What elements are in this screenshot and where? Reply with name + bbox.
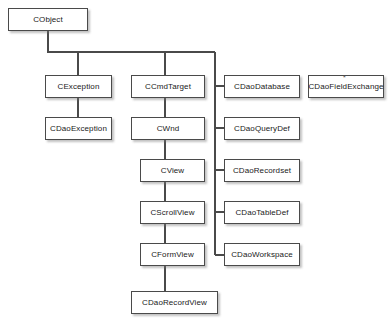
class-hierarchy-diagram: CObject CException CDaoException CCmdTar… (0, 0, 388, 326)
node-label: CDaoWorkspace (231, 251, 293, 259)
node-label: CScrollView (150, 209, 194, 217)
node-label: CDaoRecordView (142, 299, 207, 307)
node-label: CDaoTableDef (235, 209, 288, 217)
node-ccmdtarget[interactable]: CCmdTarget (131, 75, 205, 98)
node-label: CException (58, 83, 100, 91)
node-cexception[interactable]: CException (45, 75, 112, 98)
node-label: CFormView (151, 251, 194, 259)
asterisk-mark-icon: * (343, 74, 346, 81)
node-label: CDaoRecordset (233, 167, 291, 175)
node-cdaotabledef[interactable]: CDaoTableDef (224, 201, 300, 224)
node-cobject[interactable]: CObject (8, 8, 88, 31)
node-label: CDaoDatabase (234, 83, 290, 91)
node-cformview[interactable]: CFormView (140, 243, 205, 266)
node-cdaoexception[interactable]: CDaoException (45, 117, 112, 140)
node-cdaoquerydef[interactable]: CDaoQueryDef (224, 117, 300, 140)
node-cdaorecordset[interactable]: CDaoRecordset (224, 159, 300, 182)
node-label: CDaoQueryDef (234, 125, 290, 133)
node-cscrollview[interactable]: CScrollView (140, 201, 205, 224)
node-cview[interactable]: CView (140, 159, 205, 182)
node-cdaorecordview[interactable]: CDaoRecordView (131, 291, 218, 314)
node-label: CDaoException (50, 125, 107, 133)
node-cdaodatabase[interactable]: CDaoDatabase (224, 75, 300, 98)
node-label: CWnd (157, 125, 180, 133)
node-label: CView (161, 167, 184, 175)
node-cwnd[interactable]: CWnd (131, 117, 205, 140)
node-label: CDaoFieldExchange (308, 83, 383, 91)
node-cdaoworkspace[interactable]: CDaoWorkspace (224, 243, 300, 266)
node-cdaofieldexchange[interactable]: CDaoFieldExchange (308, 75, 384, 98)
node-label: CCmdTarget (145, 83, 191, 91)
node-label: CObject (33, 16, 63, 24)
edge-cobject-bus (48, 31, 215, 52)
